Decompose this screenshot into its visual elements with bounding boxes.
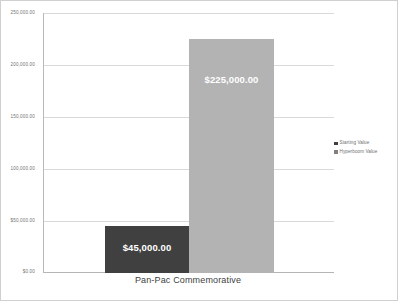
legend-swatch-icon bbox=[334, 150, 338, 154]
legend-label-hyperboom-value: Hyperboom Value bbox=[340, 150, 378, 155]
legend-item-starting-value[interactable]: Starting Value bbox=[334, 141, 396, 146]
bar-starting-value[interactable]: $45,000.00 bbox=[105, 226, 189, 273]
y-axis-tick-label: $50,000.00 bbox=[0, 219, 35, 224]
y-axis-tick-label: 200,000.00 bbox=[0, 63, 35, 68]
chart-legend[interactable]: Starting Value Hyperboom Value bbox=[334, 141, 396, 158]
gridline-250000 bbox=[44, 13, 334, 14]
y-axis-tick-label: 100,000.00 bbox=[0, 167, 35, 172]
legend-label-starting-value: Starting Value bbox=[340, 141, 370, 146]
bar-hyperboom-value[interactable]: $225,000.00 bbox=[189, 39, 274, 273]
y-axis-tick-label: $0.00 bbox=[0, 270, 35, 275]
y-axis-tick-label: 250,000.00 bbox=[0, 11, 35, 16]
bar-data-label-starting-value: $45,000.00 bbox=[105, 242, 189, 253]
legend-item-hyperboom-value[interactable]: Hyperboom Value bbox=[334, 150, 396, 155]
plot-area: $45,000.00 $225,000.00 bbox=[43, 13, 333, 273]
chart-container[interactable]: 250,000.00 200,000.00 150,000.00 100,000… bbox=[0, 0, 398, 301]
x-axis-category-label: Pan-Pac Commemorative bbox=[43, 275, 333, 285]
legend-swatch-icon bbox=[334, 142, 338, 146]
bar-data-label-hyperboom-value: $225,000.00 bbox=[189, 74, 274, 85]
y-axis-tick-label: 150,000.00 bbox=[0, 115, 35, 120]
